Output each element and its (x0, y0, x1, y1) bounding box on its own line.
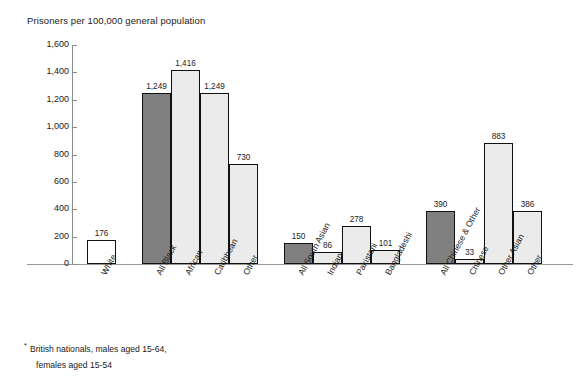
footnote-line-2: females aged 15-54 (36, 360, 112, 370)
y-axis-tick-label: 1,600 (27, 39, 69, 49)
y-axis-tick-label: 800 (27, 149, 69, 159)
bar (142, 93, 171, 264)
footnote-line-1: *British nationals, males aged 15-64, (30, 344, 167, 354)
bar-value-label: 101 (379, 239, 393, 248)
bar-value-label: 278 (350, 215, 364, 224)
bar-value-label: 730 (237, 153, 251, 162)
bar-value-label: 1,416 (175, 59, 196, 68)
bar-value-label: 86 (323, 241, 332, 250)
y-axis-tick-mark (73, 264, 77, 265)
y-axis-tick-label: 400 (27, 203, 69, 213)
y-axis-tick-label: 0 (27, 258, 69, 268)
y-axis-tick-label: 200 (27, 231, 69, 241)
bar-value-label: 150 (292, 232, 306, 241)
bar-value-label: 1,249 (146, 82, 167, 91)
footnote-text-1: British nationals, males aged 15-64, (30, 344, 167, 354)
y-axis-tick-label: 1,000 (27, 121, 69, 131)
plot-area (73, 45, 543, 264)
bar-value-label: 176 (95, 229, 109, 238)
bar (171, 70, 200, 264)
bar-value-label: 33 (465, 248, 474, 257)
bar-chart: Prisoners per 100,000 general population… (0, 0, 579, 389)
y-axis-tick-label: 1,400 (27, 66, 69, 76)
chart-title: Prisoners per 100,000 general population (27, 15, 205, 26)
bar-value-label: 1,249 (204, 82, 225, 91)
y-axis-tick-label: 1,200 (27, 94, 69, 104)
bar-value-label: 390 (434, 200, 448, 209)
bar-value-label: 883 (492, 132, 506, 141)
bar-value-label: 386 (521, 200, 535, 209)
y-axis-tick-label: 600 (27, 176, 69, 186)
bar (200, 93, 229, 264)
footnote-marker: * (24, 342, 27, 349)
